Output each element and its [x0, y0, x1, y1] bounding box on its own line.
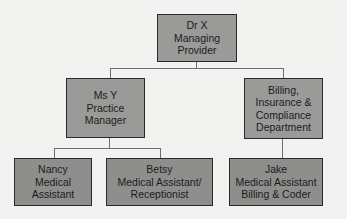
node-nancy: Nancy Medical Assistant [14, 158, 92, 206]
node-practice-manager: Ms Y Practice Manager [66, 78, 145, 138]
node-billing-department: Billing, Insurance & Compliance Departme… [244, 78, 323, 139]
node-line: Ms Y [94, 89, 118, 102]
node-line: Billing & Coder [241, 188, 310, 201]
node-line: Medical [35, 176, 71, 189]
node-line: Compliance [256, 109, 311, 122]
node-jake: Jake Medical Assistant Billing & Coder [229, 158, 323, 206]
node-line: Jake [265, 163, 287, 176]
connector-to-nancy [54, 148, 55, 158]
node-line: Billing, [268, 84, 299, 97]
org-chart: Dr X Managing Provider Ms Y Practice Man… [0, 0, 347, 219]
node-line: Practice [87, 102, 125, 115]
node-line: Department [256, 121, 311, 134]
node-betsy: Betsy Medical Assistant/ Receptionist [106, 158, 213, 206]
connector-level1-bar [110, 68, 284, 69]
node-managing-provider: Dr X Managing Provider [157, 14, 237, 62]
node-line: Dr X [187, 19, 208, 32]
node-line: Provider [177, 44, 216, 57]
node-line: Managing [174, 32, 220, 45]
connector-msy-down [109, 138, 110, 148]
node-line: Medical Assistant [235, 176, 316, 189]
node-line: Insurance & [255, 96, 311, 109]
node-line: Nancy [38, 163, 68, 176]
connector-billing-to-jake [282, 139, 283, 158]
node-line: Assistant [32, 188, 75, 201]
node-line: Receptionist [131, 188, 189, 201]
node-line: Manager [85, 114, 126, 127]
connector-to-msy [110, 68, 111, 78]
connector-to-betsy [160, 148, 161, 158]
node-line: Medical Assistant/ [117, 176, 201, 189]
connector-level2-bar [54, 148, 161, 149]
connector-to-billing [283, 68, 284, 78]
node-line: Betsy [146, 163, 172, 176]
